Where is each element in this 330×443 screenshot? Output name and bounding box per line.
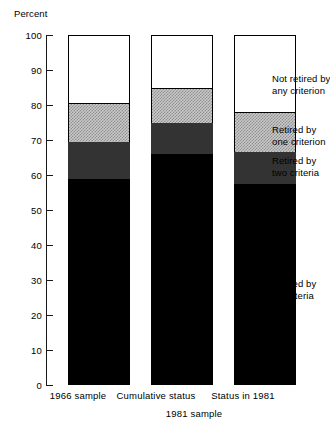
segment-retired-all-criteria [68,179,130,386]
y-tick-label-10: 10 [0,345,42,356]
legend-line-1: Retired by [272,155,319,167]
y-tick-label-70: 70 [0,135,42,146]
segment-retired-two-criteria [68,142,130,179]
y-tick-label-50: 50 [0,205,42,216]
segment-retired-one-criterion [151,88,213,123]
segment-retired-two-criteria [151,123,213,155]
x-label-cumulative-status: Cumulative status [110,390,202,401]
legend-retired-all-criteria: Retired by all criteria [272,278,316,301]
bar-cumulative-status [151,35,213,385]
segment-retired-all-criteria [151,154,213,385]
segment-not-retired-any-criterion [68,35,130,103]
segment-retired-one-criterion [68,103,130,142]
y-tick-0 [46,385,53,386]
legend-line-1: Not retired by [272,73,330,85]
legend-retired-two-criteria: Retired by two criteria [272,155,319,178]
legend-line-1: Retired by [272,124,326,136]
y-axis-title: Percent [14,8,47,19]
x-label-status-in-1981: Status in 1981 [198,390,288,401]
legend-line-2: two criteria [272,167,319,179]
legend-retired-one-criterion: Retired by one criterion [272,124,326,147]
legend-line-2: one criterion [272,136,326,148]
legend-line-2: any criterion [272,85,330,97]
y-tick-label-40: 40 [0,240,42,251]
legend-line-1: Retired by [272,278,316,290]
y-tick-label-20: 20 [0,310,42,321]
segment-not-retired-any-criterion [151,35,213,88]
legend-not-retired-any-criterion: Not retired by any criterion [272,73,330,96]
y-tick-label-60: 60 [0,170,42,181]
y-tick-label-80: 80 [0,100,42,111]
y-tick-label-100: 100 [0,30,42,41]
legend-line-2: all criteria [272,290,316,302]
x-axis-group-label: 1981 sample [129,408,259,419]
y-tick-label-30: 30 [0,275,42,286]
bar-1966-sample [68,35,130,385]
y-tick-label-90: 90 [0,65,42,76]
stacked-bar-chart: Percent 100 90 80 70 60 50 40 30 20 10 0 [0,0,330,443]
